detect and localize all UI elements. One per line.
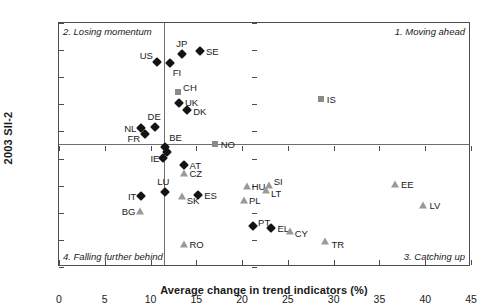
data-point-label-lt: LT	[271, 187, 281, 198]
data-point-cz	[180, 169, 188, 176]
diamond-marker-icon	[182, 105, 192, 115]
data-point-label-de: DE	[148, 111, 161, 122]
x-tick-mark-inner	[59, 146, 60, 151]
y-tick-mark-inner	[252, 77, 257, 78]
y-axis-title: 2003 SII-2	[0, 0, 18, 308]
data-point-label-ie: IE	[150, 153, 159, 164]
y-tick-mark	[59, 104, 64, 105]
triangle-marker-icon	[180, 169, 188, 176]
data-point-fr	[142, 130, 149, 137]
data-point-ro	[180, 240, 188, 247]
data-point-label-bg: BG	[122, 206, 136, 217]
y-tick-mark	[59, 186, 64, 187]
x-tick-mark-inner	[425, 146, 426, 151]
data-point-label-se: SE	[206, 46, 219, 57]
data-point-label-ro: RO	[190, 238, 204, 249]
data-point-label-is: IS	[327, 93, 336, 104]
x-tick-mark-inner	[334, 146, 335, 151]
diamond-marker-icon	[195, 47, 205, 57]
diamond-marker-icon	[177, 49, 187, 59]
data-point-pt	[250, 222, 257, 229]
x-tick-mark-inner	[288, 146, 289, 151]
triangle-marker-icon	[243, 182, 251, 189]
data-point-label-fr: FR	[127, 132, 140, 143]
data-point-label-cy: CY	[295, 228, 308, 239]
data-point-ch	[175, 89, 181, 95]
y-tick-mark	[59, 159, 64, 160]
diamond-marker-icon	[158, 153, 168, 163]
y-tick-mark-inner	[252, 50, 257, 51]
data-point-tr	[321, 238, 329, 245]
data-point-us	[153, 59, 160, 66]
y-tick-mark-inner	[252, 131, 257, 132]
y-tick-mark-inner	[252, 240, 257, 241]
data-point-label-fi: FI	[173, 67, 181, 78]
diamond-marker-icon	[160, 187, 170, 197]
data-point-no	[212, 141, 218, 147]
y-tick-mark	[59, 240, 64, 241]
data-point-label-dk: DK	[193, 106, 206, 117]
square-marker-icon	[318, 96, 324, 102]
data-point-lt	[262, 186, 270, 193]
data-point-label-cz: CZ	[190, 167, 203, 178]
data-point-label-ch: CH	[183, 82, 197, 93]
data-point-pl	[240, 196, 248, 203]
data-point-label-no: NO	[221, 138, 235, 149]
x-axis-title: Average change in trend indicators (%)	[58, 284, 470, 296]
plot-area: 0.00.10.20.30.40.50.60.70.80.9 051015202…	[58, 22, 470, 266]
data-point-label-it: IT	[128, 190, 136, 201]
data-point-label-jp: JP	[176, 38, 187, 49]
triangle-marker-icon	[419, 202, 427, 209]
data-point-label-be: BE	[169, 132, 182, 143]
square-marker-icon	[175, 89, 181, 95]
data-point-el	[268, 224, 275, 231]
quadrant-label-falling-further-behind: 4. Falling further behind	[63, 251, 163, 262]
y-tick-mark	[59, 50, 64, 51]
data-point-label-es: ES	[204, 190, 217, 201]
y-tick-mark-inner	[252, 159, 257, 160]
x-tick-mark	[59, 260, 60, 265]
triangle-marker-icon	[262, 186, 270, 193]
y-tick-mark-inner	[252, 267, 257, 268]
data-point-uk	[175, 99, 182, 106]
data-point-label-pl: PL	[249, 194, 261, 205]
y-axis-title-text: 2003 SII-2	[2, 112, 14, 165]
data-point-ie	[160, 155, 167, 162]
data-point-sk	[178, 192, 186, 199]
triangle-marker-icon	[391, 181, 399, 188]
data-point-label-lu: LU	[157, 176, 169, 187]
x-tick-mark	[242, 260, 243, 265]
data-point-label-si: SI	[274, 175, 283, 186]
data-point-lv	[419, 202, 427, 209]
data-point-label-lv: LV	[429, 200, 440, 211]
data-point-label-tr: TR	[331, 239, 344, 250]
data-point-at	[180, 161, 187, 168]
triangle-marker-icon	[178, 192, 186, 199]
data-point-de	[152, 123, 159, 130]
y-tick-mark	[59, 213, 64, 214]
data-point-se	[196, 48, 203, 55]
y-tick-mark	[59, 23, 64, 24]
data-point-label-ee: EE	[401, 179, 414, 190]
triangle-marker-icon	[136, 208, 144, 215]
y-tick-mark-inner	[252, 104, 257, 105]
y-tick-mark-inner	[252, 213, 257, 214]
triangle-marker-icon	[286, 228, 294, 235]
data-point-cy	[286, 228, 294, 235]
triangle-marker-icon	[240, 196, 248, 203]
data-point-it	[138, 192, 145, 199]
data-point-ee	[391, 181, 399, 188]
x-tick-mark-inner	[196, 146, 197, 151]
data-point-dk	[184, 107, 191, 114]
x-tick-mark-inner	[151, 146, 152, 151]
x-tick-mark-inner	[105, 146, 106, 151]
x-tick-mark	[288, 260, 289, 265]
data-point-is	[318, 96, 324, 102]
y-tick-mark	[59, 77, 64, 78]
diamond-marker-icon	[266, 223, 276, 233]
data-point-jp	[178, 51, 185, 58]
quadrant-label-moving-ahead: 1. Moving ahead	[395, 26, 465, 37]
quadrant-label-losing-momentum: 2. Losing momentum	[63, 26, 152, 37]
x-tick-mark	[334, 260, 335, 265]
data-point-label-us: US	[140, 50, 153, 61]
